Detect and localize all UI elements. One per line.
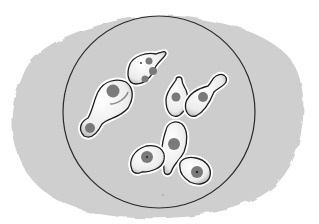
yeast-drawing [0, 0, 319, 224]
nucleus [149, 67, 157, 75]
yeast-cell-lower-left [131, 146, 165, 174]
yeast-illustration [0, 0, 319, 224]
yeast-cell-lower-right [180, 157, 211, 184]
nucleus [85, 123, 95, 133]
nucleus [142, 76, 149, 83]
nucleus [146, 58, 153, 65]
nucleus [168, 138, 180, 150]
nucleus [172, 93, 181, 102]
nucleus [198, 92, 208, 102]
nucleus [107, 85, 120, 98]
